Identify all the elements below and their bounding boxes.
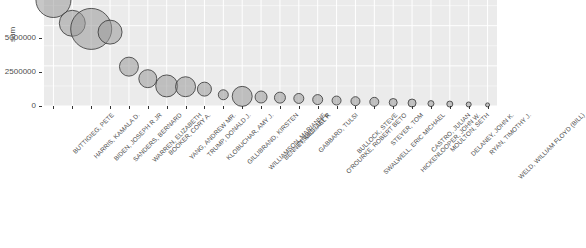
y-tick-mark-5000000	[39, 38, 42, 39]
x-tick-mark	[299, 106, 300, 109]
bubble-point	[119, 57, 138, 76]
x-tick-mark	[223, 106, 224, 109]
x-tick-mark	[261, 106, 262, 109]
x-tick-mark	[53, 106, 54, 109]
bubble-point	[232, 86, 252, 106]
x-tick-mark	[355, 106, 356, 109]
x-tick-mark	[337, 106, 338, 109]
bubble-point	[98, 20, 122, 44]
y-tick-mark-0	[39, 106, 42, 107]
x-tick-mark	[469, 106, 470, 109]
bubble-point	[351, 97, 360, 106]
bubble-point	[156, 75, 178, 97]
x-tick-label: WELD, WILLIAM FLOYD (BILL)	[517, 112, 586, 181]
x-tick-mark	[488, 106, 489, 109]
x-tick-mark	[72, 106, 73, 109]
x-tick-mark	[186, 106, 187, 109]
bubble-point	[218, 90, 228, 100]
panel-background	[44, 0, 497, 106]
bubble-point	[176, 77, 196, 97]
bubble-point	[370, 97, 379, 106]
bubble-point	[313, 95, 323, 105]
x-tick-mark	[204, 106, 205, 109]
y-axis-tick-labels: 5000000 2500000 0	[0, 0, 36, 248]
x-tick-mark	[91, 106, 92, 109]
x-tick-mark	[242, 106, 243, 109]
x-tick-mark	[412, 106, 413, 109]
x-tick-mark	[450, 106, 451, 109]
x-tick-mark	[129, 106, 130, 109]
bubble-point	[294, 93, 304, 103]
y-tick-label-5000000: 5000000	[0, 34, 36, 42]
x-tick-mark	[148, 106, 149, 109]
y-tick-mark-2500000	[39, 72, 42, 73]
x-tick-mark	[393, 106, 394, 109]
x-tick-mark	[318, 106, 319, 109]
x-tick-mark	[374, 106, 375, 109]
y-tick-label-2500000: 2500000	[0, 68, 36, 76]
bubble-point	[139, 70, 157, 88]
bubble-point	[274, 92, 285, 103]
y-tick-label-0: 0	[0, 102, 36, 110]
bubble-point	[197, 82, 211, 96]
x-tick-mark	[167, 106, 168, 109]
x-tick-mark	[280, 106, 281, 109]
bubble-point	[332, 96, 341, 105]
x-tick-mark	[431, 106, 432, 109]
x-tick-mark	[110, 106, 111, 109]
bubble-point	[255, 91, 267, 103]
